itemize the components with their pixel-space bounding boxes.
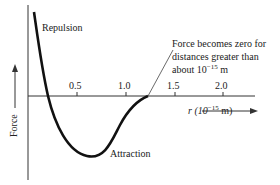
tick-0-5: 0.5 bbox=[69, 80, 82, 91]
tick-1-5: 1.5 bbox=[167, 80, 180, 91]
repulsion-label: Repulsion bbox=[42, 22, 83, 33]
y-axis-label: Force bbox=[8, 114, 19, 137]
note-line-2: distances greater than bbox=[172, 51, 259, 62]
x-axis-label: r (10−15 m) bbox=[188, 104, 232, 116]
attraction-label: Attraction bbox=[110, 148, 151, 159]
tick-2-0: 2.0 bbox=[215, 80, 228, 91]
force-distance-diagram: Repulsion Attraction Force becomes zero … bbox=[0, 0, 280, 185]
note-line-1: Force becomes zero for bbox=[172, 38, 266, 49]
force-curve bbox=[34, 12, 148, 157]
tick-1-0: 1.0 bbox=[118, 80, 131, 91]
note-line-3: about 10−15 m bbox=[172, 63, 228, 75]
